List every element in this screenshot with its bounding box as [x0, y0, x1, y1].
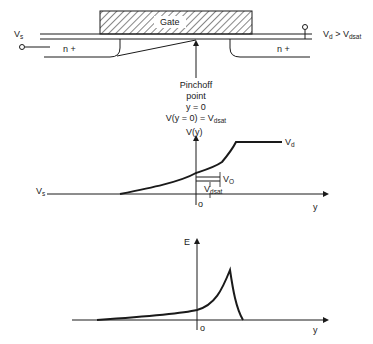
drain-terminal-icon [303, 25, 308, 30]
source-terminal-icon [20, 45, 25, 50]
pinchoff-line3: y = 0 [146, 102, 246, 112]
potential-y-axis-label: V(y) [186, 127, 203, 137]
pinchoff-line1: Pinchoff [146, 80, 246, 90]
pinchoff-line2: point [146, 91, 246, 101]
potential-x-axis-label: y [313, 202, 318, 212]
drain-voltage-label: Vd > Vdsat [323, 29, 361, 42]
source-region-label: n + [63, 44, 76, 54]
source-n-plus-region [44, 39, 120, 57]
field-y-axis-label: E [184, 237, 190, 247]
vd-label: Vd [285, 137, 295, 150]
field-x-axis-label: y [313, 325, 318, 335]
field-curve [97, 270, 243, 320]
field-plot [72, 241, 326, 330]
gate-label: Gate [160, 17, 180, 27]
diagram-canvas [0, 0, 373, 344]
vs-label: Vs [36, 186, 45, 199]
potential-curve [120, 142, 282, 194]
v0-label: VO [223, 174, 234, 187]
pinchoff-line4: V(y = 0) = Vdsat [146, 113, 246, 126]
field-origin-label: o [200, 323, 205, 333]
potential-origin-label: o [198, 199, 203, 209]
vdsat-label: Vdsat [204, 184, 222, 197]
drain-region-label: n + [277, 44, 290, 54]
drain-n-plus-region [230, 39, 310, 57]
source-voltage-label: Vs [14, 29, 23, 42]
